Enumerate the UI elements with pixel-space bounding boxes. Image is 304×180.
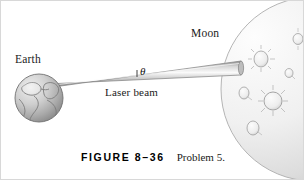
angle-theta-label: θ <box>140 65 146 77</box>
laser-beam-label: Laser beam <box>105 86 158 98</box>
laser-beam-cone <box>57 61 244 87</box>
figure-panel: Earth Moon Laser beam θ FIGURE 8–36Probl… <box>0 0 304 180</box>
moon-label: Moon <box>191 27 219 39</box>
earth-label: Earth <box>15 53 41 65</box>
figure-number-label: FIGURE 8–36 <box>81 151 165 163</box>
problem-reference-text: Problem 5. <box>177 151 225 163</box>
figure-caption: FIGURE 8–36Problem 5. <box>1 147 304 165</box>
earth-sphere <box>15 74 63 127</box>
